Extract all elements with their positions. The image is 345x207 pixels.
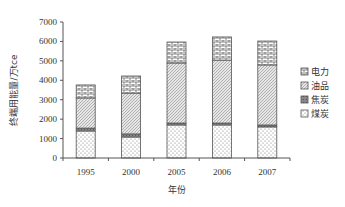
bar-segment-油品 — [258, 65, 277, 125]
x-tick-label: 2005 — [168, 167, 187, 177]
bar-segment-煤炭 — [167, 125, 186, 158]
axes-group: 0100020003000400050006000700019952000200… — [8, 17, 290, 195]
legend-label: 油品 — [311, 80, 329, 91]
bar-segment-煤炭 — [76, 131, 95, 158]
y-tick-label: 0 — [53, 153, 58, 163]
y-tick-label: 4000 — [39, 75, 58, 85]
legend-label: 焦炭 — [311, 94, 329, 105]
y-axis-title: 终端用能量/万tce — [8, 54, 19, 126]
x-tick-label: 2006 — [213, 167, 232, 177]
bar-segment-电力 — [212, 37, 231, 60]
y-tick-label: 7000 — [39, 17, 58, 27]
y-tick-label: 6000 — [39, 36, 58, 46]
bar-segment-煤炭 — [122, 137, 141, 158]
bar-segment-油品 — [167, 63, 186, 123]
legend-swatch — [301, 82, 308, 89]
legend: 电力油品焦炭煤炭 — [301, 66, 329, 119]
bar-segment-油品 — [76, 98, 95, 128]
bar-segment-油品 — [212, 60, 231, 123]
bar-segment-油品 — [122, 93, 141, 134]
bar-segment-电力 — [167, 42, 186, 63]
x-tick-label: 2007 — [258, 167, 277, 177]
stacked-bar-chart: 0100020003000400050006000700019952000200… — [0, 0, 345, 207]
legend-label: 电力 — [311, 66, 329, 77]
y-tick-label: 1000 — [39, 134, 58, 144]
bar-segment-煤炭 — [258, 127, 277, 158]
bar-segment-焦炭 — [122, 134, 141, 137]
legend-swatch — [301, 110, 308, 117]
x-tick-label: 1995 — [77, 167, 96, 177]
bar-segment-电力 — [122, 76, 141, 93]
y-tick-label: 3000 — [39, 95, 58, 105]
legend-swatch — [301, 96, 308, 103]
bar-segment-焦炭 — [76, 128, 95, 131]
y-tick-label: 2000 — [39, 114, 58, 124]
legend-label: 煤炭 — [311, 108, 329, 119]
bar-segment-煤炭 — [212, 125, 231, 158]
x-axis-title: 年份 — [168, 184, 186, 195]
bars-group — [76, 37, 277, 158]
x-tick-label: 2000 — [122, 167, 141, 177]
bar-segment-电力 — [258, 41, 277, 65]
y-tick-label: 5000 — [39, 56, 58, 66]
bar-segment-电力 — [76, 85, 95, 98]
legend-swatch — [301, 68, 308, 75]
